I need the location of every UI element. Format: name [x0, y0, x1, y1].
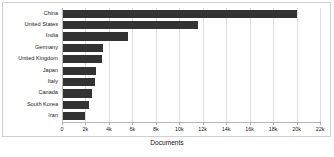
bar-row: Italy: [62, 76, 320, 87]
y-axis-category-label: United States: [24, 19, 58, 30]
y-axis-category-label: South Korea: [27, 99, 58, 110]
x-axis-tick-mark: [203, 122, 204, 125]
x-axis-tick-mark: [297, 122, 298, 125]
x-axis-tick-mark: [320, 122, 321, 125]
bar-row: Iran: [62, 111, 320, 122]
x-axis-tick-label: 16k: [245, 126, 254, 132]
y-axis-category-label: Japan: [43, 65, 58, 76]
x-axis-tick-label: 18k: [269, 126, 278, 132]
bar: [62, 10, 297, 18]
x-axis-tick-mark: [250, 122, 251, 125]
bar: [62, 101, 89, 109]
x-axis-line: [62, 122, 321, 123]
x-axis-tick-label: 6k: [130, 126, 136, 132]
bar-row: United Kingdom: [62, 54, 320, 65]
bar: [62, 44, 103, 52]
bar: [62, 78, 95, 86]
bar: [62, 55, 102, 63]
x-axis-tick-label: 10k: [175, 126, 184, 132]
y-axis-category-label: United Kingdom: [18, 53, 58, 64]
bar-row: Japan: [62, 65, 320, 76]
bar: [62, 67, 96, 75]
bar-row: United States: [62, 19, 320, 30]
y-axis-category-label: China: [43, 8, 58, 19]
bar: [62, 32, 128, 40]
y-axis-category-label: Germany: [35, 42, 58, 53]
x-axis-tick-mark: [85, 122, 86, 125]
y-axis-category-label: Italy: [48, 76, 58, 87]
x-axis-tick-label: 8k: [153, 126, 159, 132]
x-axis-tick-label: 0: [61, 126, 64, 132]
x-axis-tick-label: 12k: [198, 126, 207, 132]
x-axis-tick-mark: [132, 122, 133, 125]
bar-row: China: [62, 8, 320, 19]
bar: [62, 21, 198, 29]
x-axis-tick-label: 2k: [83, 126, 89, 132]
x-axis-tick-mark: [62, 122, 63, 125]
x-axis-tick-mark: [156, 122, 157, 125]
y-axis-line: [62, 8, 63, 122]
bar-row: Canada: [62, 88, 320, 99]
bar: [62, 112, 85, 120]
x-axis-tick-mark: [179, 122, 180, 125]
y-axis-category-label: India: [46, 30, 58, 41]
bar-row: India: [62, 31, 320, 42]
x-axis-tick-mark: [226, 122, 227, 125]
x-axis-tick-mark: [273, 122, 274, 125]
plot-area: ChinaUnited StatesIndiaGermanyUnited Kin…: [62, 8, 320, 122]
y-axis-category-label: Iran: [48, 110, 58, 121]
x-axis-tick-mark: [109, 122, 110, 125]
x-axis-tick-label: 22k: [316, 126, 325, 132]
bar-row: Germany: [62, 42, 320, 53]
y-axis-category-label: Canada: [38, 87, 58, 98]
bar: [62, 89, 92, 97]
bar-chart: ChinaUnited StatesIndiaGermanyUnited Kin…: [0, 0, 334, 157]
x-axis-tick-label: 14k: [222, 126, 231, 132]
bar-row: South Korea: [62, 99, 320, 110]
x-axis-tick-label: 4k: [106, 126, 112, 132]
gridline: [320, 8, 321, 122]
x-axis-title: Documents: [0, 139, 334, 146]
x-axis-tick-label: 20k: [292, 126, 301, 132]
